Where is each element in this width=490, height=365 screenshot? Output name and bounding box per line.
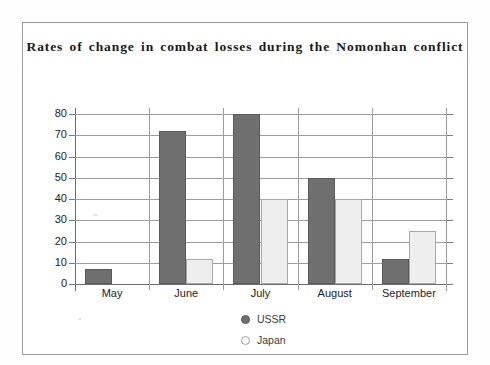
y-tick-label: 60 (25, 151, 67, 162)
y-tick-mark (69, 114, 75, 115)
y-tick-mark (69, 178, 75, 179)
bar-ussr-september (382, 259, 409, 285)
filled-circle-icon (241, 315, 250, 324)
scan-speck (78, 318, 81, 320)
x-tick-label-july: July (223, 287, 297, 299)
y-tick-label: 40 (25, 193, 67, 204)
x-tick-label-august: August (298, 287, 372, 299)
category-separator (223, 108, 224, 290)
y-tick-label: 30 (25, 214, 67, 225)
y-tick-label: 0 (25, 278, 67, 289)
gridline (75, 157, 446, 158)
y-tick-mark-right (447, 242, 453, 243)
chart-legend: USSR Japan (241, 313, 286, 355)
bar-japan-july (261, 199, 288, 284)
chart-frame: Rates of change in combat losses during … (22, 22, 468, 355)
y-axis-labels: 01020304050607080 (23, 23, 67, 365)
y-tick-label: 10 (25, 257, 67, 268)
y-tick-mark-right (447, 114, 453, 115)
y-tick-mark-right (447, 157, 453, 158)
category-separator (149, 108, 150, 290)
bar-japan-august (335, 199, 362, 284)
y-tick-mark-right (447, 135, 453, 136)
legend-label-japan: Japan (257, 334, 286, 346)
bar-ussr-june (159, 131, 186, 284)
plot-area (75, 114, 446, 284)
y-tick-mark (69, 135, 75, 136)
y-tick-mark (69, 220, 75, 221)
y-tick-mark (69, 199, 75, 200)
scan-speck (93, 214, 98, 216)
legend-item-ussr: USSR (241, 313, 286, 325)
page-background: Rates of change in combat losses during … (0, 0, 490, 365)
y-tick-mark-right (447, 284, 453, 285)
x-tick-label-may: May (75, 287, 149, 299)
y-tick-label: 20 (25, 236, 67, 247)
legend-item-japan: Japan (241, 334, 286, 346)
category-separator (372, 108, 373, 290)
y-tick-mark (69, 242, 75, 243)
bar-japan-june (186, 259, 213, 285)
y-tick-label: 50 (25, 172, 67, 183)
y-tick-mark (69, 284, 75, 285)
gridline (75, 178, 446, 179)
y-tick-mark-right (447, 220, 453, 221)
bar-ussr-july (233, 114, 260, 284)
gridline (75, 284, 446, 285)
y-tick-label: 70 (25, 129, 67, 140)
gridline (75, 135, 446, 136)
legend-label-ussr: USSR (257, 313, 286, 325)
bar-ussr-august (308, 178, 335, 284)
y-tick-label: 80 (25, 108, 67, 119)
bar-ussr-may (85, 269, 112, 284)
y-tick-mark-right (447, 178, 453, 179)
y-tick-mark (69, 157, 75, 158)
category-separator (298, 108, 299, 290)
x-tick-label-june: June (149, 287, 223, 299)
gridline (75, 114, 446, 115)
open-circle-icon (241, 336, 250, 345)
y-tick-mark-right (447, 263, 453, 264)
chart-title: Rates of change in combat losses during … (23, 39, 467, 55)
bar-japan-september (409, 231, 436, 284)
y-tick-mark (69, 263, 75, 264)
y-tick-mark-right (447, 199, 453, 200)
x-tick-label-september: September (372, 287, 446, 299)
